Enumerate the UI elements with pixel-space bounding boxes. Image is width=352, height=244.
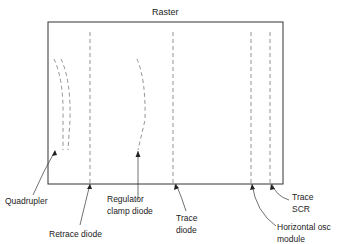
trace-diode-label-line2: diode — [176, 225, 197, 236]
regulator-clamp-diode-arrowhead — [136, 151, 141, 157]
regulator-clamp-diode-label-line2: clamp diode — [107, 206, 153, 217]
quadrupler-arc-2 — [61, 59, 70, 150]
retrace-diode-leader — [80, 184, 90, 225]
raster-title: Raster — [152, 7, 179, 18]
raster-frame — [48, 22, 283, 184]
horizontal-osc-module-arrowhead — [250, 184, 255, 190]
quadrupler-leader — [33, 151, 55, 195]
regulator-clamp-diode-arc — [137, 59, 145, 150]
horizontal-osc-module-label-line1: Horizontal osc — [277, 222, 331, 233]
trace-diode-label-line1: Trace — [176, 213, 197, 224]
quadrupler-label: Quadrupler — [5, 196, 48, 207]
regulator-clamp-diode-label-line1: Regulator — [107, 194, 144, 205]
trace-scr-label-line1: Trace — [292, 192, 313, 203]
quadrupler-arc-1 — [54, 59, 63, 150]
trace-scr-leader — [272, 184, 289, 200]
trace-scr-label-line2: SCR — [292, 204, 310, 215]
retrace-diode-label: Retrace diode — [49, 229, 102, 240]
quadrupler-arrowhead — [52, 150, 57, 156]
horizontal-osc-module-leader — [252, 184, 276, 226]
horizontal-osc-module-label-line2: module — [277, 234, 305, 244]
